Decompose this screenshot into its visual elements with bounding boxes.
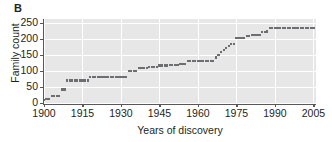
y-tick-mark — [40, 71, 43, 72]
x-axis-title: Years of discovery — [44, 124, 316, 136]
chart-figure: B Family count 050100150200250 190019151… — [0, 0, 332, 142]
x-tick-label: 1960 — [178, 107, 218, 119]
plot-area — [44, 19, 316, 103]
data-point — [215, 56, 217, 58]
data-point — [184, 63, 186, 65]
gridline-vertical — [121, 19, 122, 103]
y-tick-mark — [40, 23, 43, 24]
data-point — [48, 98, 50, 100]
y-tick-label: 150 — [0, 48, 38, 60]
x-tick-label: 1915 — [62, 107, 102, 119]
y-tick-label: 250 — [0, 16, 38, 28]
data-point — [135, 70, 137, 72]
data-point — [87, 79, 89, 81]
y-tick-label: 100 — [0, 64, 38, 76]
data-point — [243, 37, 245, 39]
data-point — [220, 51, 222, 53]
data-point — [217, 54, 219, 56]
gridline-vertical — [313, 19, 314, 103]
gridline-vertical — [159, 19, 160, 103]
x-tick-label: 1930 — [101, 107, 141, 119]
y-tick-label: 200 — [0, 32, 38, 44]
y-tick-mark — [40, 39, 43, 40]
y-tick-mark — [40, 55, 43, 56]
data-point — [58, 95, 60, 97]
x-tick-label: 1975 — [216, 107, 256, 119]
data-point — [258, 34, 260, 36]
data-point — [233, 43, 235, 45]
x-tick-label: 1900 — [24, 107, 64, 119]
y-tick-mark — [40, 103, 43, 104]
data-point — [266, 30, 268, 32]
y-axis-line — [43, 19, 44, 104]
y-tick-label: 50 — [0, 80, 38, 92]
y-tick-mark — [40, 87, 43, 88]
data-point — [312, 27, 314, 29]
gridline-vertical — [82, 19, 83, 103]
gridline-vertical — [236, 19, 237, 103]
x-tick-label: 1990 — [255, 107, 295, 119]
data-point — [156, 66, 158, 68]
data-point — [212, 60, 214, 62]
data-point — [63, 88, 65, 90]
data-point — [125, 76, 127, 78]
gridline-vertical — [275, 19, 276, 103]
x-tick-label: 1945 — [139, 107, 179, 119]
x-tick-label: 2005 — [293, 107, 332, 119]
data-point — [223, 49, 225, 51]
data-point — [225, 47, 227, 49]
